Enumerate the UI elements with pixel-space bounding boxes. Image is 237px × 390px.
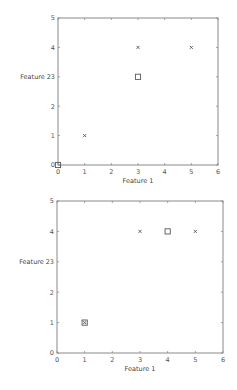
x-tick-label: 3 (136, 168, 140, 176)
y-tick-label: 5 (50, 197, 54, 205)
x-tick-label: 6 (221, 356, 225, 364)
y-tick-label: 0 (50, 349, 54, 357)
y-tick-label: 3 (51, 73, 55, 81)
x-tick-label: 4 (163, 168, 167, 176)
x-tick-label: 3 (138, 356, 142, 364)
y-tick-label: 5 (51, 14, 55, 22)
x-tick-label: 1 (83, 168, 87, 176)
x-tick-label: 1 (83, 356, 87, 364)
x-marker (139, 230, 142, 233)
y-axis-label: Feature 2 (19, 258, 50, 266)
x-marker (190, 46, 193, 49)
x-tick-label: 4 (166, 356, 170, 364)
y-tick-label: 3 (50, 258, 54, 266)
x-tick-label: 6 (216, 168, 220, 176)
x-marker (194, 230, 197, 233)
x-tick-label: 2 (109, 168, 113, 176)
x-tick-label: 0 (55, 356, 59, 364)
y-tick-label: 2 (51, 103, 55, 111)
y-tick-label: 1 (50, 319, 54, 327)
plot-frame (58, 18, 218, 165)
x-tick-label: 2 (110, 356, 114, 364)
y-tick-label: 2 (50, 289, 54, 297)
scatter-plot-2: 0123456012345Feature 1Feature 2 (19, 197, 225, 373)
x-tick-label: 5 (193, 356, 197, 364)
x-marker (83, 134, 86, 137)
y-tick-label: 4 (50, 228, 54, 236)
square-marker (135, 74, 140, 79)
x-tick-label: 5 (189, 168, 193, 176)
chart-canvas: 0123456012345Feature 1Feature 2012345601… (0, 0, 237, 390)
scatter-plot-1: 0123456012345Feature 1Feature 2 (20, 14, 220, 185)
y-tick-label: 4 (51, 44, 55, 52)
y-tick-label: 0 (51, 161, 55, 169)
x-marker (137, 46, 140, 49)
x-marker (83, 321, 86, 324)
y-axis-label: Feature 2 (20, 73, 51, 81)
plot-frame (57, 201, 223, 353)
square-marker (165, 229, 170, 234)
x-tick-label: 0 (56, 168, 60, 176)
y-tick-label: 1 (51, 132, 55, 140)
x-axis-label: Feature 1 (125, 365, 156, 373)
x-axis-label: Feature 1 (123, 177, 154, 185)
